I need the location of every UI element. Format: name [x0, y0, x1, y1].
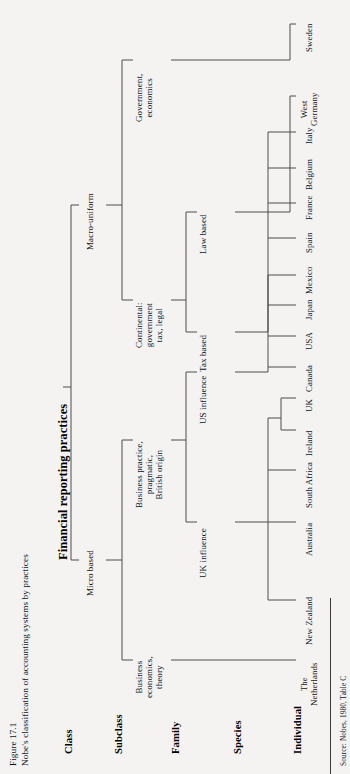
rank-label-species: Species: [232, 720, 244, 754]
leaf-line: Japan: [305, 299, 315, 320]
node-business-practice-pragmatic: Business practice, pragmatic, British or…: [134, 441, 164, 508]
leaf-line: New Zealand: [305, 597, 315, 645]
node-line: pragmatic,: [144, 441, 154, 508]
node-line: government: [144, 302, 154, 348]
rank-label-subclass: Subclass: [113, 714, 125, 754]
leaf-australia: Australia: [305, 523, 315, 556]
leaf-line: USA: [305, 332, 315, 350]
leaf-belgium: Belgium: [305, 159, 315, 190]
leaf-france: France: [305, 195, 315, 220]
node-business-economics-theory: Business economics, theory: [134, 656, 164, 698]
leaf-line: Canada: [305, 365, 315, 392]
source-divider: [330, 598, 331, 774]
leaf-south-africa: South Africa: [305, 462, 315, 508]
leaf-canada: Canada: [305, 365, 315, 392]
leaf-usa: USA: [305, 332, 315, 350]
node-line: Business: [134, 656, 144, 698]
node-us-influence: US influence: [198, 376, 208, 424]
leaf-line: Ireland: [305, 430, 315, 456]
node-line: Government,: [134, 74, 144, 122]
leaf-japan: Japan: [305, 299, 315, 320]
leaf-italy: Italy: [305, 127, 315, 144]
leaf-line: Italy: [305, 127, 315, 144]
figure-caption-text-wrap: Nobe's classification of accounting syst…: [20, 554, 30, 766]
leaf-uk: UK: [305, 399, 315, 412]
node-line: Business practice,: [134, 441, 144, 508]
rank-label-individual: Individual: [292, 706, 304, 754]
leaf-line: Spain: [305, 232, 315, 253]
figure-caption: Figure 17.1: [8, 723, 18, 766]
leaf-line: Germany: [310, 93, 320, 126]
node-line: tax, legal: [154, 302, 164, 348]
leaf-line: South Africa: [305, 462, 315, 508]
figure-canvas: Figure 17.1 Nobe's classification of acc…: [0, 0, 350, 774]
leaf-the-netherlands: The Netherlands: [300, 662, 319, 706]
leaf-line: Mexico: [305, 267, 315, 294]
rank-label-family: Family: [170, 722, 182, 754]
node-line: Continental:: [134, 302, 144, 348]
figure-caption-text: Nobe's classification of accounting syst…: [20, 554, 30, 766]
node-law-based: Law based: [198, 214, 208, 254]
node-line: theory: [154, 656, 164, 698]
leaf-ireland: Ireland: [305, 430, 315, 456]
node-tax-based: Tax based: [198, 335, 208, 372]
node-line: economics: [144, 74, 154, 122]
leaf-line: Netherlands: [310, 662, 320, 706]
leaf-line: Belgium: [305, 159, 315, 190]
tree-connectors: [0, 0, 350, 774]
leaf-mexico: Mexico: [305, 267, 315, 294]
leaf-sweden: Sweden: [305, 24, 315, 52]
leaf-line: UK: [305, 399, 315, 412]
node-line: economics,: [144, 656, 154, 698]
leaf-new-zealand: New Zealand: [305, 597, 315, 645]
node-line: British origin: [154, 441, 164, 508]
leaf-west-germany: West Germany: [300, 93, 319, 126]
figure-source: Source: Nobes, 1980, Table C: [340, 676, 348, 766]
node-government-economics: Government, economics: [134, 74, 154, 122]
node-macro-uniform: Macro-uniform: [85, 193, 95, 250]
leaf-line: Sweden: [305, 24, 315, 52]
leaf-line: Australia: [305, 523, 315, 556]
leaf-line: France: [305, 195, 315, 220]
leaf-spain: Spain: [305, 232, 315, 253]
rank-label-class: Class: [63, 729, 75, 754]
page-title: Financial reporting practices: [57, 404, 71, 560]
node-micro-based: Micro based: [85, 550, 95, 596]
figure-number: Figure 17.1: [8, 723, 18, 766]
node-uk-influence: UK influence: [198, 528, 208, 578]
node-continental-government-tax-legal: Continental: government tax, legal: [134, 302, 164, 348]
